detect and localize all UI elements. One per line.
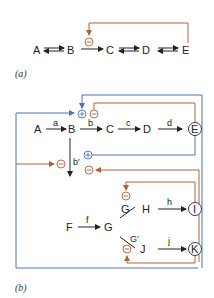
enzyme-d: d [167,118,172,128]
node-j: J [140,243,146,255]
panel-b: A a B b C c D d E b′ [15,95,202,294]
svg-text:I: I [193,203,196,215]
activate-icon-b [78,110,86,118]
inhibition-line-i [96,170,199,262]
node-c: C [106,44,114,56]
inhibit-icon [85,38,93,46]
caption-a: (a) [15,68,27,80]
activate-icon-bprime [84,151,92,159]
inhibit-icon-bprime-left [57,160,65,168]
inhibit-icon-bprime-right [85,166,93,174]
node-g-prime: G′ [130,234,139,244]
reversible-arrow-cd [119,48,139,51]
node-a: A [33,44,41,56]
node-d: D [142,44,150,56]
node-e-circle: E [189,123,202,136]
node-b: B [68,123,75,135]
panel-a: A B C D E (a) [15,23,189,80]
enzyme-a: a [53,118,58,128]
reversible-arrow-de [158,48,178,51]
enzyme-b: b [88,118,93,128]
feedback-inhibition-line [89,23,188,43]
enzyme-j: j [167,236,170,246]
node-g: G [104,221,113,233]
inhibition-line-i-local [126,182,195,207]
caption-b: (b) [15,282,27,294]
node-k-circle: K [189,243,202,256]
enzyme-f: f [86,215,89,225]
inhibition-line-e [94,103,195,122]
activation-line-outer [16,113,198,268]
enzyme-c: c [126,118,131,128]
node-e: E [182,44,189,56]
feedback-inhibition-diagram: A B C D E (a) [0,0,214,298]
node-d: D [143,123,151,135]
inhibit-icon-b [90,110,98,118]
svg-text:K: K [191,243,199,255]
reversible-arrow-ab [44,48,64,51]
node-f: F [66,221,73,233]
node-a: A [34,123,42,135]
node-c: C [106,123,114,135]
node-h: H [142,203,150,215]
inhibit-icon-h [122,192,130,200]
inhibition-line-k [127,256,195,263]
svg-text:E: E [191,123,198,135]
enzyme-h: h [167,197,172,207]
node-b: B [67,44,74,56]
enzyme-b-prime: b′ [73,157,80,167]
inhibit-icon-j [123,245,131,253]
node-i-circle: I [189,203,202,216]
node-g-upper: G [121,203,130,215]
